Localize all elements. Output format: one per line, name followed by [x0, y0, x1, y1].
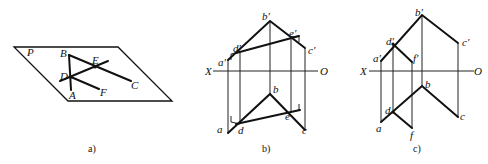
- label-f-prime: f': [413, 52, 419, 64]
- caption-b: b): [262, 143, 270, 155]
- label-plane-p: P: [26, 46, 34, 58]
- label-a-prime: a': [373, 52, 382, 64]
- label-a: a: [376, 122, 382, 134]
- label-c: c: [460, 110, 465, 122]
- label-c: C: [131, 79, 139, 91]
- line-df: [393, 112, 412, 128]
- label-b: b: [273, 83, 279, 95]
- label-b-prime: b': [262, 10, 271, 22]
- label-c-prime: c': [462, 36, 470, 48]
- label-c-prime: c': [308, 44, 316, 56]
- label-d: D: [59, 70, 68, 82]
- label-f: F: [99, 86, 107, 98]
- line-ba: [69, 55, 71, 90]
- label-e: e: [285, 110, 290, 122]
- label-d: d: [238, 124, 244, 136]
- caption-a: a): [88, 143, 96, 155]
- label-a: a: [217, 123, 223, 135]
- label-d: d: [385, 104, 391, 116]
- figure-a: P B E C D A F a): [14, 46, 172, 155]
- label-c: c: [302, 124, 307, 136]
- label-e-prime: e': [289, 27, 297, 39]
- diagram-canvas: P B E C D A F a) X O a' d' b' e': [0, 0, 488, 164]
- point-d: [69, 75, 72, 78]
- label-axis-o: O: [320, 65, 328, 77]
- label-f: f: [410, 129, 415, 141]
- label-a: A: [68, 89, 76, 101]
- label-b: b: [425, 78, 431, 90]
- line-bc: [69, 55, 131, 81]
- line-df: [71, 77, 99, 89]
- caption-c: c): [413, 143, 421, 155]
- label-axis-x: X: [359, 65, 368, 77]
- label-axis-x: X: [204, 65, 213, 77]
- label-d-prime: d': [233, 42, 242, 54]
- label-e: E: [91, 54, 99, 66]
- line-d1f1: [393, 44, 412, 62]
- label-axis-o: O: [474, 65, 482, 77]
- label-b-prime: b': [415, 6, 424, 18]
- point-d: [391, 110, 394, 113]
- label-d-prime: d': [386, 35, 395, 47]
- figure-c: X O a' d' b' f' c' a d b f c c): [359, 6, 482, 155]
- label-a-prime: a': [218, 56, 227, 68]
- figure-b: X O a' d' b' e' c' a d b e c b): [204, 10, 328, 155]
- label-b: B: [60, 47, 67, 59]
